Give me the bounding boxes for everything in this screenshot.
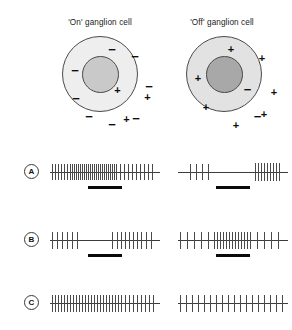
spike: [148, 164, 149, 180]
spike: [258, 295, 259, 312]
spike: [92, 164, 93, 180]
spike: [144, 164, 145, 180]
baseline-axis: [178, 172, 288, 173]
spike: [252, 295, 253, 312]
spike: [94, 295, 95, 312]
spike: [80, 164, 81, 180]
spike: [84, 164, 85, 180]
spike: [276, 295, 277, 312]
spike-train-c-off: [178, 281, 288, 327]
center-sign-minus: −: [254, 109, 262, 122]
receptive-field-on-cell: −−−−−−−−+++: [62, 36, 138, 112]
row-label-b: B: [24, 232, 39, 247]
stimulus-bar-b-off: [216, 254, 250, 257]
spike: [246, 295, 247, 312]
spike-train-a-off: [178, 150, 288, 196]
spike: [118, 295, 119, 312]
surround-sign-minus: −: [71, 64, 79, 77]
spike: [271, 232, 272, 249]
spike: [112, 232, 113, 249]
spike: [198, 295, 199, 312]
row-label-a: A: [24, 164, 39, 179]
spike: [112, 295, 113, 312]
spike: [110, 164, 111, 180]
spike: [114, 164, 115, 180]
spike: [210, 295, 211, 312]
baseline-axis: [178, 303, 288, 304]
spike: [214, 232, 215, 249]
spike: [64, 164, 65, 180]
spike: [187, 232, 188, 249]
spike: [208, 164, 209, 180]
spike: [76, 295, 77, 312]
surround-sign-minus: −: [72, 92, 80, 105]
spike: [244, 232, 245, 249]
spike: [192, 295, 193, 312]
spike: [151, 232, 152, 249]
surround-sign-minus: −: [131, 50, 139, 63]
stimulus-bar-a-off: [216, 186, 250, 189]
stimulus-bar-a-on: [88, 186, 122, 189]
spike: [67, 164, 68, 180]
spike: [91, 295, 92, 312]
spike: [90, 164, 91, 180]
spike: [228, 295, 229, 312]
spike: [180, 295, 181, 312]
spike: [104, 164, 105, 180]
spike: [125, 295, 126, 312]
spike: [82, 164, 83, 180]
spike: [232, 232, 233, 249]
center-region: [206, 56, 243, 93]
spike: [222, 295, 223, 312]
surround-sign-plus: +: [233, 120, 239, 131]
surround-sign-minus: −: [108, 43, 116, 56]
spike: [62, 232, 63, 249]
spike: [121, 295, 122, 312]
stimulus-bar-b-on: [88, 254, 122, 257]
spike: [115, 295, 116, 312]
surround-sign-minus: −: [85, 110, 93, 123]
surround-sign-plus: +: [195, 73, 201, 84]
spike: [74, 164, 75, 180]
spike: [55, 164, 56, 180]
spike: [258, 163, 259, 181]
spike: [88, 295, 89, 312]
spike: [261, 163, 262, 181]
spike: [61, 164, 62, 180]
center-sign-plus: +: [114, 84, 120, 95]
spike: [112, 164, 113, 180]
spike-train-c-on: [50, 281, 160, 327]
spike: [276, 163, 277, 181]
spike: [128, 164, 129, 180]
spike: [79, 295, 80, 312]
spike: [77, 232, 78, 249]
spike: [250, 232, 251, 249]
spike: [52, 232, 53, 249]
spike: [186, 295, 187, 312]
spike: [133, 232, 134, 249]
spike: [85, 295, 86, 312]
spike: [152, 164, 153, 180]
spike: [247, 232, 248, 249]
spike: [279, 163, 280, 181]
spike: [190, 164, 191, 180]
spike: [109, 295, 110, 312]
center-sign-plus: +: [144, 91, 150, 102]
spike-train-b-off: [178, 218, 288, 264]
spike: [67, 232, 68, 249]
spike: [72, 164, 73, 180]
spike: [108, 164, 109, 180]
surround-sign-plus: +: [261, 109, 267, 120]
spike: [121, 232, 122, 249]
surround-sign-minus: −: [132, 112, 140, 125]
spike: [208, 232, 209, 249]
spike: [129, 295, 130, 312]
figure-canvas: 'On' ganglion cell 'Off' ganglion cell −…: [0, 0, 292, 330]
spike: [264, 163, 265, 181]
spike: [136, 164, 137, 180]
surround-sign-plus: +: [203, 102, 209, 113]
spike: [146, 232, 147, 249]
column-title-off: 'Off' ganglion cell: [132, 18, 292, 27]
spike: [55, 295, 56, 312]
surround-sign-plus: +: [259, 53, 265, 64]
